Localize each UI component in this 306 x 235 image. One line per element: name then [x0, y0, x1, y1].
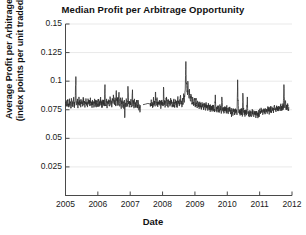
- x-axis-tick-label: 2011: [243, 199, 277, 209]
- gridlines: [66, 24, 293, 167]
- x-axis-tick-label: 2010: [210, 199, 244, 209]
- x-axis-label: Date: [0, 216, 306, 227]
- y-axis-tick-label: 0.05: [20, 132, 62, 142]
- x-axis-tick-label: 2008: [146, 199, 180, 209]
- x-axis-tick-label: 2006: [81, 199, 115, 209]
- y-axis-tick-label: 0.15: [20, 18, 62, 28]
- y-axis-ticks: [66, 24, 70, 196]
- data-series-segment: [66, 77, 141, 118]
- y-axis-tick-label: 0.025: [20, 161, 62, 171]
- x-axis-ticks: [66, 192, 293, 196]
- x-axis-tick-label: 2005: [49, 199, 83, 209]
- x-axis-tick-label: 2012: [275, 199, 306, 209]
- x-axis-tick-label: 2009: [178, 199, 212, 209]
- chart-figure: Median Profit per Arbitrage Opportunity …: [0, 0, 306, 235]
- x-axis-tick-label: 2007: [113, 199, 147, 209]
- y-axis-tick-label: 0.125: [20, 47, 62, 57]
- y-axis-tick-label: 0.1: [20, 75, 62, 85]
- y-axis-tick-label: 0.075: [20, 104, 62, 114]
